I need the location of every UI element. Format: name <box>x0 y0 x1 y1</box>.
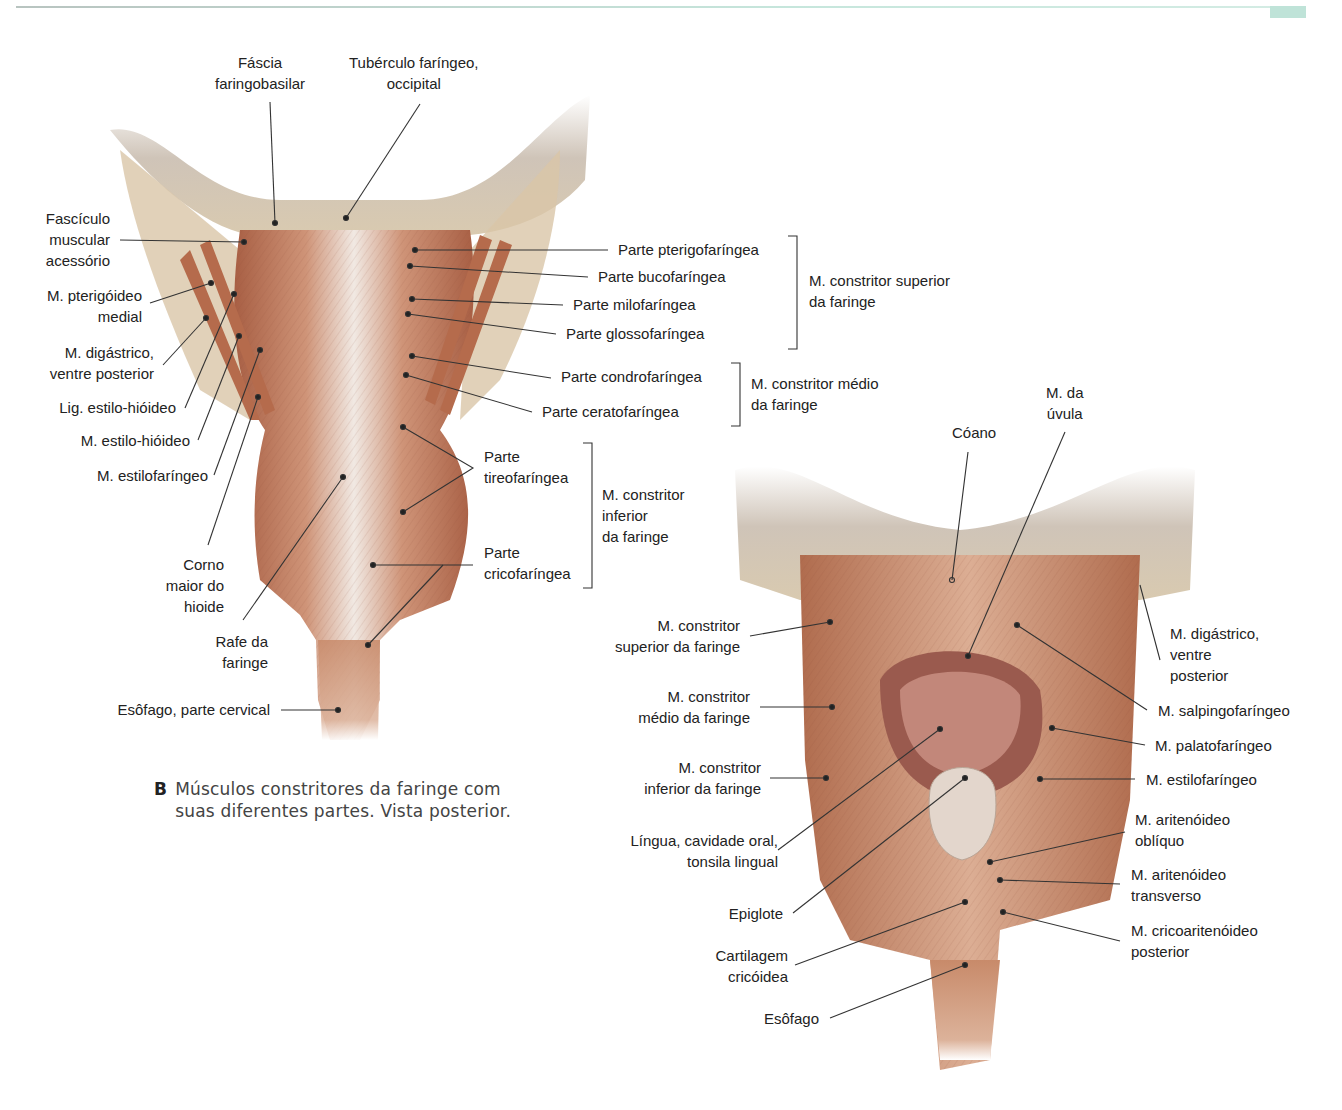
label-pterigoideo-medial: M. pterigóideo medial <box>30 285 142 327</box>
label-aritenoideo-obliquo: M. aritenóideo oblíquo <box>1135 809 1230 851</box>
label-digastrico-b: M. digástrico, ventre posterior <box>30 342 154 384</box>
label-group-constritor-inferior: M. constritor inferior da faringe <box>602 484 685 547</box>
label-coano: Cóano <box>952 422 996 443</box>
label-fasciculo-muscular: Fascículo muscular acessório <box>38 208 110 271</box>
label-salpingofaringeo: M. salpingofaríngeo <box>1158 700 1290 721</box>
label-parte-milofaringea: Parte milofaríngea <box>573 294 696 315</box>
label-constritor-inferior-c: M. constritor inferior da faringe <box>600 757 761 799</box>
label-parte-pterigofaringea: Parte pterigofaríngea <box>618 239 759 260</box>
label-estilo-hioideo: M. estilo-hióideo <box>30 430 190 451</box>
label-esofago-c: Esôfago <box>740 1008 819 1029</box>
label-lingua-tonsila: Língua, cavidade oral, tonsila lingual <box>600 830 778 872</box>
label-digastrico-c: M. digástrico, ventre posterior <box>1170 623 1259 686</box>
label-estilofaringeo-b: M. estilofaríngeo <box>30 465 208 486</box>
label-tuberculo-faringeo: Tubérculo faríngeo, occipital <box>349 52 479 94</box>
label-rafe-faringe: Rafe da faringe <box>190 631 268 673</box>
label-cricoaritenoideo-posterior: M. cricoaritenóideo posterior <box>1131 920 1258 962</box>
label-parte-bucofaringea: Parte bucofaríngea <box>598 266 726 287</box>
label-corno-maior-hioide: Corno maior do hioide <box>140 554 224 617</box>
label-parte-glossofaringea: Parte glossofaríngea <box>566 323 704 344</box>
label-parte-tireofaringea: Parte tireofaríngea <box>484 446 568 488</box>
caption-line-1: Músculos constritores da faringe com <box>175 779 501 799</box>
label-parte-ceratofaringea: Parte ceratofaríngea <box>542 401 679 422</box>
label-cartilagem-cricoidea: Cartilagem cricóidea <box>690 945 788 987</box>
label-lig-estilo-hioideo: Lig. estilo-hióideo <box>30 397 176 418</box>
label-fascia-faringobasilar: Fáscia faringobasilar <box>215 52 305 94</box>
label-parte-condrofaringea: Parte condrofaríngea <box>561 366 702 387</box>
label-epiglote: Epiglote <box>700 903 783 924</box>
label-constritor-medio-c: M. constritor médio da faringe <box>600 686 750 728</box>
label-musculo-uvula: M. da úvula <box>1046 382 1084 424</box>
label-parte-cricofaringea: Parte cricofaríngea <box>484 542 571 584</box>
label-aritenoideo-transverso: M. aritenóideo transverso <box>1131 864 1226 906</box>
label-group-constritor-superior: M. constritor superior da faringe <box>809 270 950 312</box>
label-palatofaringeo: M. palatofaríngeo <box>1155 735 1272 756</box>
figure-c-pharynx-opened <box>735 466 1195 1070</box>
figure-b-caption: BMúsculos constritores da faringe comsua… <box>154 778 511 822</box>
label-esofago-cervical: Esôfago, parte cervical <box>90 699 270 720</box>
figure-b-pharynx <box>110 95 590 740</box>
label-estilofaringeo-c: M. estilofaríngeo <box>1146 769 1257 790</box>
label-group-constritor-medio: M. constritor médio da faringe <box>751 373 879 415</box>
caption-letter: B <box>154 779 167 799</box>
label-constritor-superior-c: M. constritor superior da faringe <box>590 615 740 657</box>
caption-line-2: suas diferentes partes. Vista posterior. <box>175 801 511 821</box>
